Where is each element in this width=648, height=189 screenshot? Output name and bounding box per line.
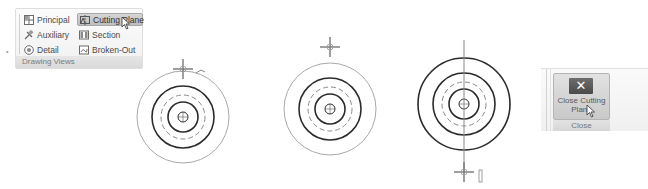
drawing-view-2[interactable] [284,63,376,155]
text-cursor-icon [479,170,482,182]
close-label-line1: Close Cutting [554,96,609,105]
drawing-view-1[interactable] [137,71,229,163]
close-cutting-plane-label: Close Cutting Plane [554,96,609,114]
close-icon: ✕ [569,78,593,94]
keypoint-snap-marker-icon [196,70,205,73]
mouse-cursor-icon [586,104,596,118]
close-group-caption: Close [553,120,610,131]
placed-point-crosshair-icon [320,37,340,57]
panel-separator [550,69,551,131]
close-cutting-plane-button[interactable]: ✕ Close Cutting Plane [553,73,610,120]
close-ribbon-group: ✕ Close Cutting Plane Close [541,68,648,131]
close-label-line2: Plane [554,105,609,114]
endpoint-crosshair-icon [454,162,474,182]
panel-separator [546,69,547,131]
snap-point-crosshair-icon [173,59,193,79]
